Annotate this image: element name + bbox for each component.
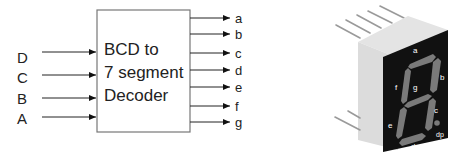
output-label-b: b (235, 27, 242, 42)
output-f: f (190, 99, 239, 114)
seg-label-c: c (434, 106, 438, 115)
output-label-e: e (235, 80, 242, 95)
input-b: B (17, 90, 96, 107)
output-e: e (190, 80, 242, 95)
output-label-a: a (235, 11, 243, 26)
pin-icon (346, 20, 370, 33)
decoder-title-line1: BCD to (104, 40, 159, 59)
input-label-a: A (17, 110, 27, 127)
output-label-f: f (235, 99, 239, 114)
decoder-title-line3: Decoder (104, 86, 169, 105)
pin-icon (368, 11, 392, 23)
output-label-c: c (235, 46, 242, 61)
output-label-d: d (235, 63, 242, 78)
output-g: g (190, 115, 242, 130)
output-label-g: g (235, 115, 242, 130)
seven-segment-display: a b c d e f g dp (335, 6, 448, 152)
decoder-title-line2: 7 segment (104, 63, 184, 82)
input-d: D (17, 49, 96, 66)
pin-icon (336, 25, 360, 38)
pin-icon (357, 15, 381, 28)
input-label-d: D (17, 49, 28, 66)
input-a: A (17, 110, 96, 127)
input-signals: D C B A (17, 49, 96, 127)
segment-dp (434, 120, 440, 126)
input-label-b: B (17, 90, 27, 107)
output-a: a (190, 11, 243, 26)
seg-label-d: d (411, 142, 415, 151)
output-c: c (190, 46, 242, 61)
seg-label-e: e (388, 121, 393, 130)
input-c: C (17, 69, 96, 86)
output-d: d (190, 63, 242, 78)
decoder-block: BCD to 7 segment Decoder (97, 10, 190, 132)
diagram-canvas: BCD to 7 segment Decoder D C B A a b (0, 0, 469, 153)
input-label-c: C (17, 69, 28, 86)
bottom-pins (335, 111, 360, 130)
seg-label-g: g (413, 83, 417, 92)
seg-label-a: a (413, 46, 418, 55)
seg-label-dp: dp (436, 131, 444, 139)
output-signals: a b c d e f g (190, 11, 243, 130)
output-b: b (190, 27, 242, 42)
seg-label-b: b (440, 73, 445, 82)
pin-icon (380, 6, 404, 18)
pin-icon (335, 117, 360, 130)
